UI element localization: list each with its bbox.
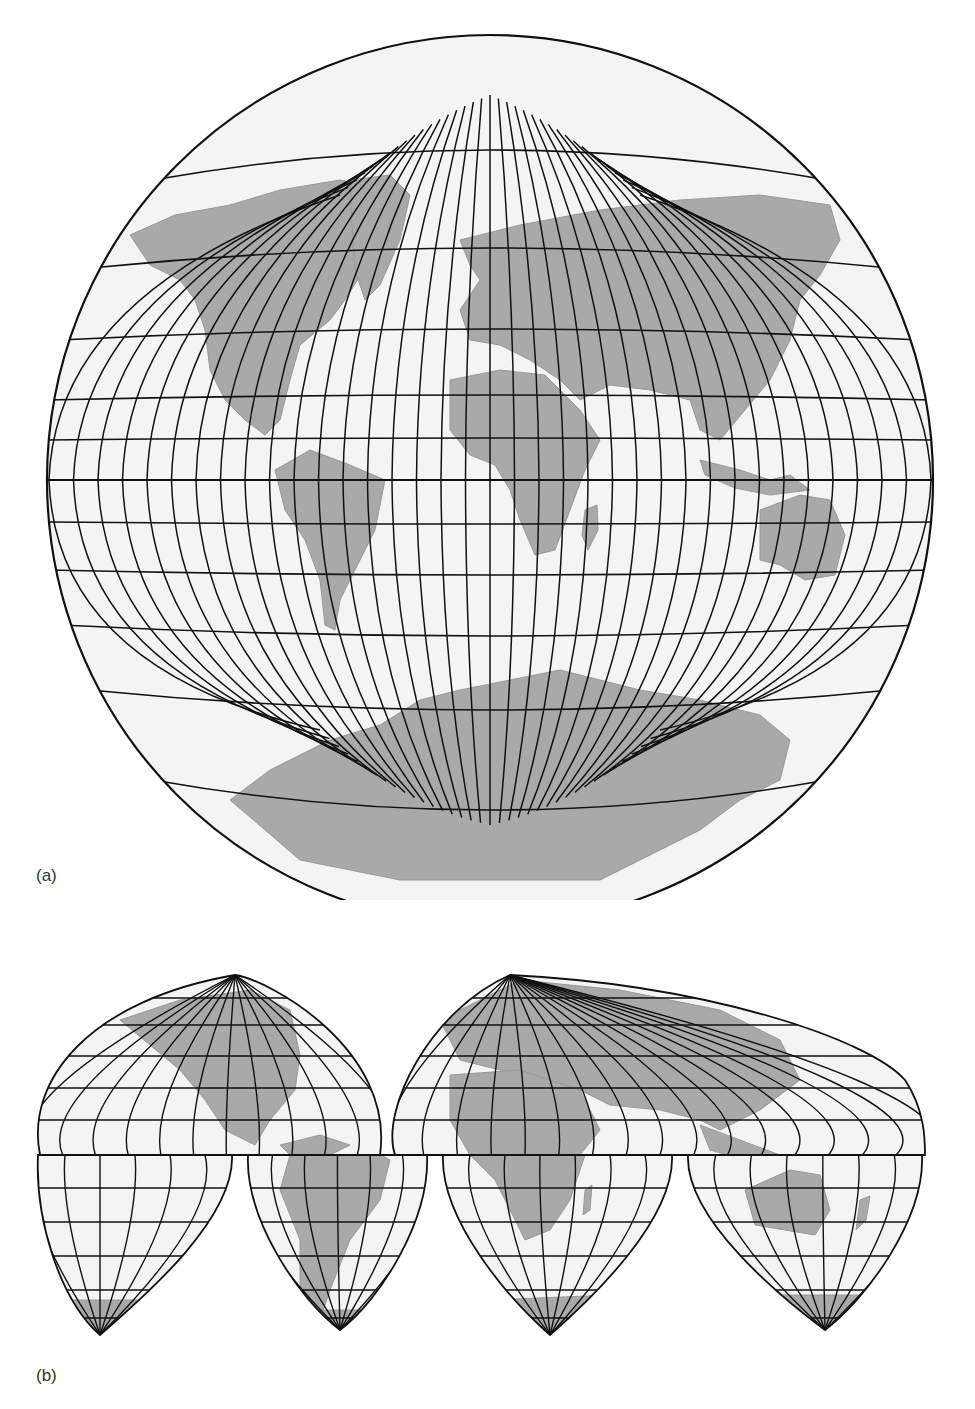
panel-a-globe-map <box>0 0 975 900</box>
interrupted-map-graphic <box>0 960 975 1360</box>
panel-label-b: (b) <box>36 1366 57 1386</box>
panel-label-a: (a) <box>36 866 57 886</box>
panel-b-interrupted-map <box>0 960 975 1360</box>
globe-map-graphic <box>0 0 975 900</box>
